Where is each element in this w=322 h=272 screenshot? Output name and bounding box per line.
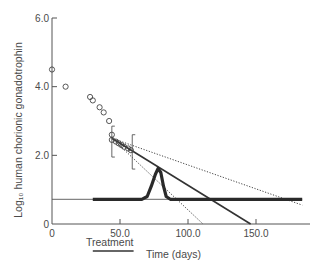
axes [52,18,310,224]
chart: 02.04.06.0050.0100.0150.0 Log₁₀ human ch… [0,0,322,272]
x-tick-label: 150.0 [243,228,268,239]
response-curve-line [93,168,302,199]
x-tick-label: 0 [49,228,55,239]
y-tick-label: 2.0 [35,150,49,161]
data-point [97,105,102,110]
data-point [90,98,95,103]
treatment-label: Treatment [86,236,134,248]
data-point [87,94,92,99]
lower-confidence-limit-line [112,138,203,224]
data-point [107,118,112,123]
x-tick-label: 100.0 [175,228,200,239]
y-tick-label: 4.0 [35,81,49,92]
y-axis-title: Log₁₀ human chorionic gonadotrophin [12,42,24,218]
data-point [101,110,106,115]
plot-lines [52,138,302,224]
axis-ticks: 02.04.06.0050.0100.0150.0 [35,13,269,240]
data-point [63,84,68,89]
upper-confidence-limit-line [112,138,302,205]
y-tick-label: 6.0 [35,13,49,24]
x-axis-title: Time (days) [146,248,201,260]
data-points [49,67,133,153]
